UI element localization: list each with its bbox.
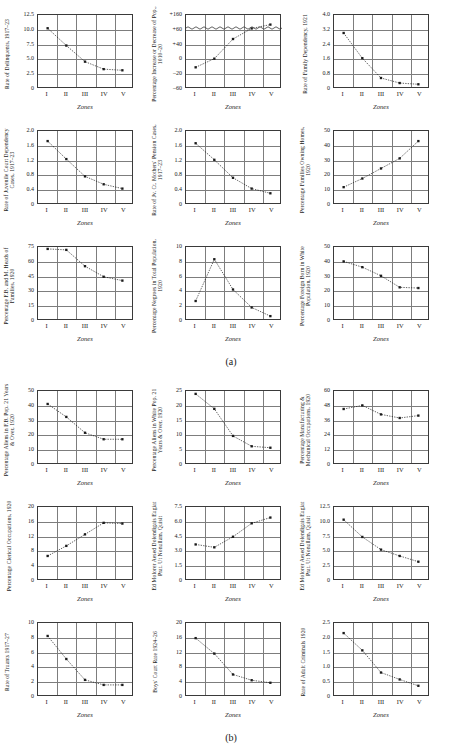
y-tick-label: 4 [31, 562, 34, 568]
x-tick-label: II [64, 698, 68, 706]
chart-row: Rate of Delinquents, 1917–2302.55.07.510… [0, 6, 462, 122]
y-tick-label: 2.5 [27, 70, 35, 76]
x-tick-label: II [212, 322, 216, 330]
data-point-marker [399, 82, 401, 84]
x-axis-ticks: IIIIIIIVV [185, 206, 281, 216]
data-point-marker [361, 266, 363, 268]
x-tick-label: V [269, 466, 274, 474]
x-tick-label: IV [397, 466, 404, 474]
y-tick-label: 2.5 [323, 619, 331, 625]
x-tick-label: IV [397, 698, 404, 706]
y-tick-label: 7.5 [175, 503, 183, 509]
y-tick-label: 45 [28, 273, 34, 279]
y-tick-label: 0 [31, 577, 34, 583]
x-tick-label: IV [249, 90, 256, 98]
y-tick-label: 60 [324, 387, 330, 393]
data-point-marker [213, 408, 215, 410]
y-tick-label: 1.6 [27, 142, 35, 148]
y-tick-label: 7.5 [323, 533, 331, 539]
figure-b-grid: Percentage Aliens in F.B. Pop. 21 Years … [0, 382, 462, 730]
data-point-marker [342, 519, 344, 521]
y-axis-ticks: 01530456075 [14, 246, 36, 320]
data-point-marker [46, 555, 48, 557]
x-tick-label: II [64, 206, 68, 214]
y-tick-label: 0 [327, 85, 330, 91]
x-tick-label: V [269, 206, 274, 214]
chart-panel: Rate of Juvenile Court Dependency Cases,… [0, 122, 148, 238]
y-tick-label: 5.0 [27, 55, 35, 61]
data-point-marker [342, 408, 344, 410]
data-point-marker [46, 248, 48, 250]
y-axis-ticks: 00.40.81.21.62.0 [14, 130, 36, 204]
x-axis-label: Zones [37, 595, 133, 603]
x-tick-label: III [82, 582, 88, 590]
data-point-marker [417, 83, 419, 85]
x-tick-label: III [230, 206, 236, 214]
y-axis-label: Rate of Adult Criminals 1920 [296, 614, 310, 710]
figure-a: Rate of Delinquents, 1917–2302.55.07.510… [0, 6, 462, 368]
x-tick-label: II [360, 582, 364, 590]
series-line [48, 141, 123, 189]
x-tick-label: III [82, 206, 88, 214]
x-axis-label: Zones [333, 595, 429, 603]
y-tick-label: 20 [176, 619, 182, 625]
series-overlay [334, 391, 428, 463]
y-tick-label: 0 [179, 693, 182, 699]
data-point-marker [121, 187, 123, 189]
plot-area [37, 506, 133, 580]
y-tick-label: 10.0 [24, 26, 35, 32]
plot-area [185, 14, 281, 88]
data-point-marker [194, 637, 196, 639]
y-tick-label: 4.0 [323, 11, 331, 17]
x-tick-label: II [360, 90, 364, 98]
y-axis-label: Boys' Court Rate 1924–26 [148, 614, 162, 710]
data-point-marker [84, 175, 86, 177]
y-tick-label: 8 [179, 258, 182, 264]
x-tick-label: II [212, 466, 216, 474]
y-tick-label: 1.0 [323, 663, 331, 669]
series-line [344, 520, 419, 562]
x-tick-label: I [342, 698, 344, 706]
data-point-marker [232, 673, 234, 675]
x-tick-label: I [194, 206, 196, 214]
data-point-marker [213, 652, 215, 654]
data-point-marker [417, 414, 419, 416]
series-line [344, 33, 419, 84]
x-tick-label: IV [249, 206, 256, 214]
chart-panel: Ed Molorer Aesed Dolendigais Eugiat Prat… [148, 498, 296, 614]
y-tick-label: 16 [28, 518, 34, 524]
series-line [48, 636, 123, 685]
series-overlay [186, 391, 280, 463]
x-tick-label: IV [249, 698, 256, 706]
data-point-marker [194, 66, 196, 68]
data-point-marker [342, 186, 344, 188]
figure-b: Percentage Aliens in F.B. Pop. 21 Years … [0, 382, 462, 744]
y-axis-label-text: Rate of Delinquents, 1917–23 [4, 6, 10, 102]
plot-area [37, 130, 133, 204]
y-tick-label: 10 [176, 243, 182, 249]
chart-row: Rate of Truants 1917–270246810IIIIIIIVVZ… [0, 614, 462, 730]
plot-area [185, 390, 281, 464]
chart-panel: Rate of Truants 1917–270246810IIIIIIIVVZ… [0, 614, 148, 730]
series-line [196, 518, 271, 548]
series-overlay [186, 131, 280, 203]
data-point-marker [361, 649, 363, 651]
x-axis-ticks: IIIIIIIVV [37, 206, 133, 216]
y-tick-label: 0.8 [175, 171, 183, 177]
y-tick-label: 50 [28, 387, 34, 393]
y-tick-label: 4.5 [175, 533, 183, 539]
y-tick-label: 0 [31, 461, 34, 467]
data-point-marker [417, 685, 419, 687]
y-tick-label: 60 [28, 258, 34, 264]
y-axis-label-text: Percentage Clerical Occupations, 1920 [6, 498, 12, 594]
data-point-marker [65, 44, 67, 46]
y-tick-label: 6 [179, 273, 182, 279]
chart-panel: Percentage Families Owning Homes, 192001… [296, 122, 444, 238]
y-tick-label: 48 [324, 402, 330, 408]
data-point-marker [84, 265, 86, 267]
x-tick-label: I [194, 582, 196, 590]
x-axis-ticks: IIIIIIIVV [37, 90, 133, 100]
y-tick-label: 0 [31, 317, 34, 323]
plot-area [185, 506, 281, 580]
data-point-marker [46, 635, 48, 637]
